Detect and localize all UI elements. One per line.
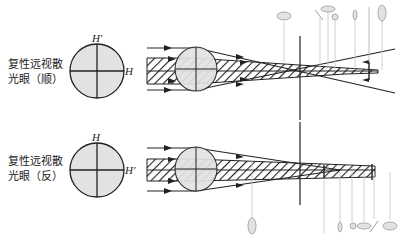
optical-beam-top bbox=[147, 36, 395, 120]
meridian-label-vertical: H' bbox=[91, 32, 103, 44]
eye-disc-bottom: H H' bbox=[70, 131, 136, 197]
meridian-label-horizontal: H' bbox=[124, 164, 136, 176]
astigmatism-diagram: H' H bbox=[0, 0, 404, 244]
meridian-label-vertical: H bbox=[91, 131, 101, 143]
optical-beam-bottom bbox=[147, 122, 375, 205]
blur-shapes-top bbox=[277, 5, 386, 70]
eye-disc-top: H' H bbox=[70, 32, 134, 98]
meridian-label-horizontal: H bbox=[124, 65, 134, 77]
